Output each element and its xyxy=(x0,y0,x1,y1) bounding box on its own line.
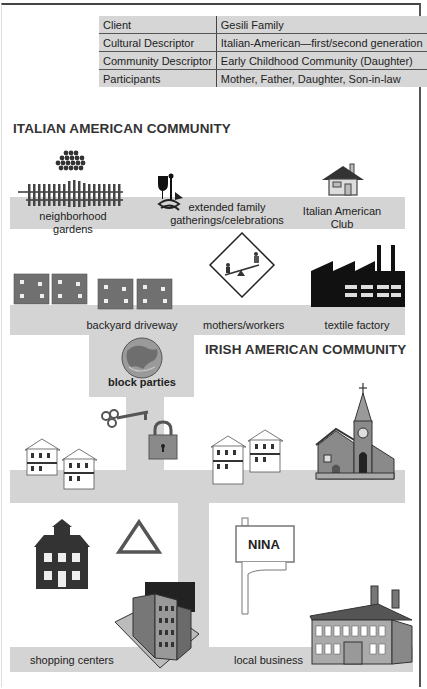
grapes-icon xyxy=(52,150,92,174)
label-line: Italian American xyxy=(298,205,386,218)
table-row: Client Gesili Family xyxy=(99,16,427,34)
table-value: Early Childhood Community (Daughter) xyxy=(216,52,426,70)
white-houses-icon xyxy=(22,436,104,492)
table-value: Mother, Father, Daughter, Son-in-law xyxy=(216,70,426,88)
table-key: Participants xyxy=(99,70,216,88)
table-key: Client xyxy=(99,16,216,34)
table-value: Gesili Family xyxy=(216,16,426,34)
italian-community-heading: ITALIAN AMERICAN COMMUNITY xyxy=(13,121,231,136)
label-local-business: local business xyxy=(234,654,314,667)
table-key: Cultural Descriptor xyxy=(99,34,216,52)
signpost-icon xyxy=(234,518,296,614)
table-key: Community Descriptor xyxy=(99,52,216,70)
church-icon xyxy=(314,383,396,485)
label-italian-american-club: Italian American Club xyxy=(298,205,386,231)
label-shopping-centers: shopping centers xyxy=(30,654,122,667)
office-building-icon xyxy=(115,578,201,672)
factory-icon xyxy=(311,245,405,308)
triangle-sign-icon xyxy=(116,519,162,555)
white-houses-icon xyxy=(208,429,288,489)
row-houses-icon xyxy=(14,272,174,314)
label-line: gatherings/celebrations xyxy=(168,214,286,227)
label-mothers-workers: mothers/workers xyxy=(203,319,283,332)
label-line: extended family xyxy=(168,201,286,214)
label-backyard-driveway: backyard driveway xyxy=(86,319,178,332)
padlock-icon xyxy=(147,420,179,460)
label-line: Club xyxy=(298,218,386,231)
label-extended-family: extended family gatherings/celebrations xyxy=(168,201,286,227)
table-row: Cultural Descriptor Italian-American—fir… xyxy=(99,34,427,52)
key-icon xyxy=(100,408,152,434)
fence-icon xyxy=(18,178,123,208)
label-neighborhood-gardens: neighborhood gardens xyxy=(18,210,128,236)
seesaw-sign-icon xyxy=(209,232,275,298)
house-icon xyxy=(322,164,364,196)
table-row: Community Descriptor Early Childhood Com… xyxy=(99,52,427,70)
irish-community-heading: IRISH AMERICAN COMMUNITY xyxy=(205,342,406,357)
client-info-table: Client Gesili Family Cultural Descriptor… xyxy=(99,16,427,87)
label-textile-factory: textile factory xyxy=(312,319,402,332)
label-block-parties: block parties xyxy=(92,376,192,389)
schoolhouse-icon xyxy=(34,517,90,591)
local-business-building-icon xyxy=(310,586,412,666)
globe-icon xyxy=(121,337,163,379)
table-value: Italian-American—first/second generation xyxy=(216,34,426,52)
sign-text: NINA xyxy=(238,538,290,551)
table-row: Participants Mother, Father, Daughter, S… xyxy=(99,70,427,88)
